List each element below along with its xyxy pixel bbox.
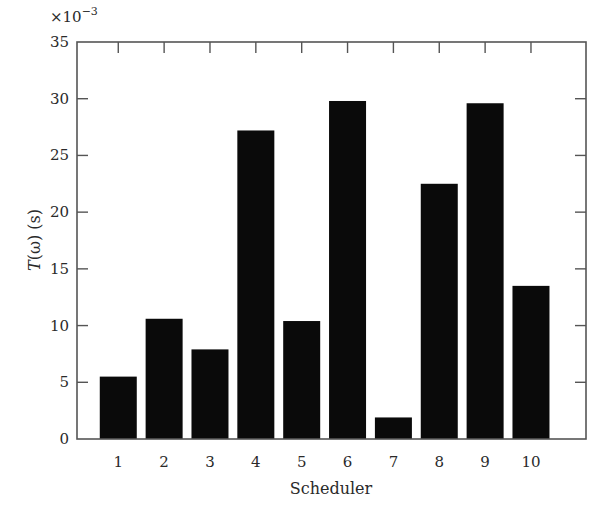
x-tick-label: 8 xyxy=(434,453,444,471)
y-axis-label-rest: (ω) (s) xyxy=(25,209,44,260)
x-tick-label: 10 xyxy=(521,453,540,471)
bar-chart: 05101520253035 12345678910 Scheduler T(ω… xyxy=(0,0,603,519)
x-axis-label: Scheduler xyxy=(290,479,373,498)
y-axis-label: T(ω) (s) xyxy=(25,209,44,271)
x-tick-label: 6 xyxy=(343,453,353,471)
y-tick-label: 35 xyxy=(50,33,69,51)
x-tick-label: 3 xyxy=(205,453,215,471)
bars-group xyxy=(100,101,550,439)
y-tick-label: 30 xyxy=(50,90,69,108)
bar-scheduler-1 xyxy=(100,377,137,439)
y-axis-multiplier: ×10−3 xyxy=(50,5,98,26)
y-tick-label: 10 xyxy=(50,317,69,335)
y-tick-label: 5 xyxy=(59,373,69,391)
x-tick-label: 7 xyxy=(389,453,399,471)
x-tick-label: 9 xyxy=(480,453,490,471)
bar-scheduler-5 xyxy=(283,321,320,439)
y-tick-label: 15 xyxy=(50,260,69,278)
y-multiplier-exponent: −3 xyxy=(82,5,98,18)
y-multiplier-base: ×10 xyxy=(50,8,82,26)
bar-scheduler-7 xyxy=(375,417,412,439)
x-tick-label: 2 xyxy=(159,453,169,471)
bar-scheduler-2 xyxy=(146,319,183,439)
bar-scheduler-3 xyxy=(191,349,228,439)
y-tick-label: 20 xyxy=(50,203,69,221)
bar-scheduler-4 xyxy=(237,130,274,439)
bar-scheduler-9 xyxy=(467,103,504,439)
x-tick-label: 5 xyxy=(297,453,307,471)
bar-scheduler-8 xyxy=(421,184,458,439)
bar-scheduler-6 xyxy=(329,101,366,439)
x-tick-label: 4 xyxy=(251,453,261,471)
y-tick-label: 25 xyxy=(50,146,69,164)
x-tick-label: 1 xyxy=(113,453,123,471)
y-tick-label: 0 xyxy=(59,430,69,448)
bar-scheduler-10 xyxy=(512,286,549,439)
